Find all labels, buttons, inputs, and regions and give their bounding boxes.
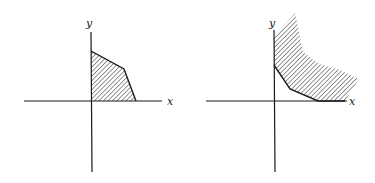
diagram-canvas: x y x y (0, 0, 375, 183)
y-axis-label: y (268, 17, 276, 30)
figure-unbounded: x y (206, 13, 359, 172)
y-axis-label: y (85, 17, 93, 30)
bounded-region-hatch (91, 51, 136, 101)
unbounded-region-hatch (274, 13, 359, 101)
x-axis-label: x (167, 95, 174, 108)
figure-bounded: x y (24, 17, 174, 172)
x-axis-label: x (349, 95, 356, 108)
